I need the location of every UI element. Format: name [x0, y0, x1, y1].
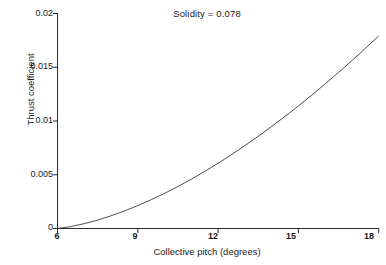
chart-figure: Solidity = 0.078 0.02 0.015 0.01 0.005 0… [0, 0, 386, 265]
thrust-coefficient-curve [58, 36, 379, 229]
plot-canvas [0, 0, 386, 265]
x-axis-ticks [58, 229, 379, 234]
y-axis-ticks [53, 14, 58, 229]
